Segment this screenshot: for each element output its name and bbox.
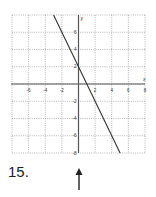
y-tick-label: -6 bbox=[72, 133, 76, 138]
x-tick-label: 2 bbox=[94, 88, 97, 93]
x-tick-label: -2 bbox=[60, 88, 64, 93]
y-tick-label: -2 bbox=[72, 99, 76, 104]
axes bbox=[11, 15, 145, 153]
x-tick-label: 8 bbox=[144, 88, 147, 93]
y-axis-label: y bbox=[80, 15, 84, 21]
y-tick-label: -4 bbox=[72, 116, 76, 121]
x-tick-label: 6 bbox=[127, 88, 130, 93]
up-arrow-icon bbox=[74, 168, 84, 190]
x-tick-label: 4 bbox=[110, 88, 113, 93]
y-tick-label: -8 bbox=[72, 151, 76, 156]
x-axis-label: x bbox=[142, 76, 146, 82]
problem-number: 15. bbox=[8, 163, 29, 180]
x-tick-label: -4 bbox=[43, 88, 47, 93]
x-tick-label: -6 bbox=[27, 88, 31, 93]
